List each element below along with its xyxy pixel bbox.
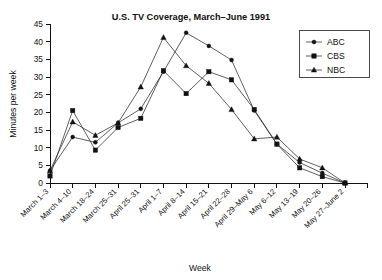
data-point-cbs-8 (229, 78, 233, 82)
data-point-cbs-11 (297, 166, 301, 170)
data-point-cbs-9 (252, 107, 256, 111)
data-point-cbs-4 (139, 116, 143, 120)
chart-title: U.S. TV Coverage, March–June 1991 (112, 12, 270, 22)
data-point-cbs-1 (70, 108, 74, 112)
data-point-abc-7 (207, 44, 211, 48)
data-point-cbs-0 (48, 174, 52, 178)
x-axis-title: Week (189, 263, 212, 273)
y-tick-label: 10 (34, 143, 44, 153)
data-point-cbs-7 (207, 70, 211, 74)
y-tick-label: 20 (34, 107, 44, 117)
data-point-cbs-2 (93, 148, 97, 152)
data-point-cbs-6 (184, 91, 188, 95)
y-tick-label: 0 (38, 178, 43, 188)
legend-label: NBC (327, 65, 345, 75)
data-point-cbs-5 (161, 68, 165, 72)
data-point-cbs-10 (275, 142, 279, 146)
y-tick-label: 40 (34, 37, 44, 47)
tv-coverage-line-chart: U.S. TV Coverage, March–June 1991 051015… (0, 0, 382, 280)
y-tick-label: 35 (34, 54, 44, 64)
y-tick-label: 15 (34, 125, 44, 135)
y-tick-label: 30 (34, 72, 44, 82)
legend-swatch-marker-cbs (312, 54, 316, 58)
chart-figure: U.S. TV Coverage, March–June 1991 051015… (0, 0, 382, 280)
data-point-abc-8 (230, 58, 234, 62)
data-point-cbs-3 (116, 125, 120, 129)
data-point-abc-1 (71, 135, 75, 139)
data-point-abc-6 (184, 31, 188, 35)
chart-legend: ABCCBSNBC (299, 30, 369, 77)
data-point-cbs-12 (320, 174, 324, 178)
y-tick-label: 5 (38, 160, 43, 170)
legend-label: CBS (327, 51, 345, 61)
legend-label: ABC (327, 37, 345, 47)
legend-swatch-marker-abc (312, 40, 316, 44)
data-point-abc-2 (93, 140, 97, 144)
y-axis-title: Minutes per week (8, 70, 18, 138)
data-point-abc-4 (139, 107, 143, 111)
y-tick-label: 45 (34, 19, 44, 29)
y-tick-label: 25 (34, 90, 44, 100)
